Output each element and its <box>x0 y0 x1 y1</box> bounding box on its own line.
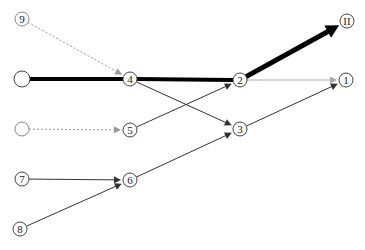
node-9: 9 <box>15 12 29 26</box>
edge-line <box>137 79 233 80</box>
edge-n4-n3 <box>136 82 231 126</box>
edge-line <box>136 86 227 127</box>
edge-line <box>26 186 117 226</box>
edge-line <box>29 179 116 180</box>
edge-n2-nII <box>246 25 339 76</box>
node-8: 8 <box>13 222 27 236</box>
edge-n7-n6 <box>29 176 121 183</box>
arrowhead-icon <box>330 77 337 84</box>
node-label: 2 <box>237 74 243 86</box>
node-6: 6 <box>123 173 137 187</box>
node-circle <box>15 122 29 136</box>
edge-src_b-n5 <box>29 126 121 133</box>
edge-n6-n3 <box>136 133 231 178</box>
edge-line <box>136 135 227 177</box>
edge-n2-n1 <box>247 77 337 84</box>
node-label: II <box>343 15 351 27</box>
node-src_b <box>15 122 29 136</box>
node-7: 7 <box>15 172 29 186</box>
edge-line <box>246 30 331 77</box>
edge-n5-n2 <box>136 83 231 127</box>
node-label: 6 <box>127 174 133 186</box>
edge-line <box>28 22 118 72</box>
node-2: 2 <box>233 73 247 87</box>
edge-n3-n1 <box>246 84 337 127</box>
node-5: 5 <box>123 123 137 137</box>
node-label: 8 <box>17 223 23 235</box>
node-label: 7 <box>19 173 25 185</box>
edges-layer <box>26 22 339 226</box>
edge-line <box>246 86 333 126</box>
node-label: 4 <box>127 73 133 85</box>
node-4: 4 <box>123 72 137 86</box>
edge-n4-n2 <box>137 79 233 80</box>
node-label: 3 <box>237 123 243 135</box>
node-src_a <box>14 71 30 87</box>
node-label: 5 <box>127 124 133 136</box>
node-label: 1 <box>343 74 349 86</box>
node-circle <box>14 71 30 87</box>
edge-n9-n4 <box>28 22 122 74</box>
node-1: 1 <box>339 73 353 87</box>
edge-n8-n6 <box>26 183 121 226</box>
arrowhead-icon <box>114 126 121 133</box>
graph-canvas: 942II153768 <box>0 0 365 250</box>
edge-line <box>29 129 116 130</box>
arrowhead-icon <box>114 176 121 183</box>
edge-line <box>136 82 227 123</box>
node-II: II <box>340 14 354 28</box>
node-label: 9 <box>19 13 25 25</box>
node-3: 3 <box>233 122 247 136</box>
